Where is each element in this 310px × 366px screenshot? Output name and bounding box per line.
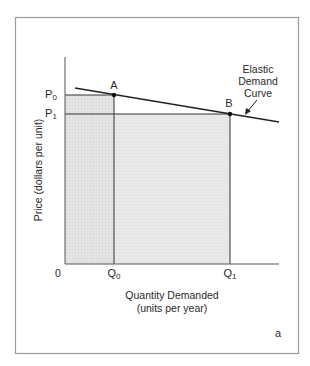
panel-label: a [275,327,282,339]
y-axis-label: Price (dollars per unit) [32,119,44,222]
point-a [112,93,116,97]
point-b-label: B [225,97,232,109]
demand-chart: A B Elastic Demand Curve P0 P1 0 Q0 Q1 Q… [0,0,310,366]
x-tick-zero: 0 [55,267,61,279]
revenue-area-a [65,95,114,264]
point-a-label: A [110,79,118,91]
curve-label-line1: Elastic [243,63,274,75]
point-b [228,112,232,116]
curve-label-line2: Demand [238,75,278,87]
x-axis-sublabel: (units per year) [137,302,208,314]
curve-label-line3: Curve [244,87,272,99]
x-axis-label: Quantity Demanded [125,289,219,301]
